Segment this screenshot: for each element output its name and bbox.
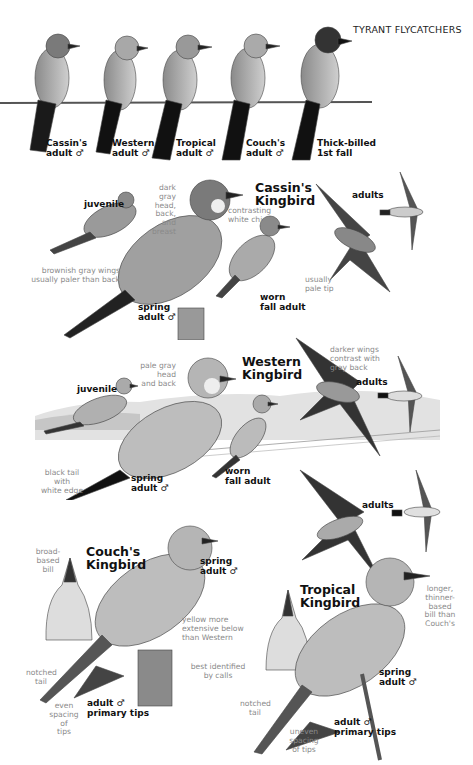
tropical-primary-tips-label: adult ♂primary tips bbox=[334, 717, 396, 737]
western-note-tail: black tail withwhite edge bbox=[36, 469, 88, 495]
tropical-spring-adult-label: springadult ♂ bbox=[379, 667, 417, 687]
couchs-note-spacing: evenspacing oftips bbox=[46, 702, 82, 737]
cassins-juvenile-label: juvenile bbox=[84, 199, 124, 209]
western-spring-adult-label: springadult ♂ bbox=[131, 473, 169, 493]
western-juvenile-label: juvenile bbox=[77, 384, 117, 394]
western-note-head: pale gray headand back bbox=[120, 362, 176, 388]
tropical-note-bill: longer,thinner-basedbill thanCouch's bbox=[420, 585, 460, 629]
couchs-primary-tips-label: adult ♂primary tips bbox=[87, 698, 149, 718]
cassins-title: Cassin'sKingbird bbox=[255, 181, 315, 207]
cassins-spring-adult-label: springadult ♂ bbox=[138, 302, 176, 322]
couchs-note-bill: broad-basedbill bbox=[33, 548, 63, 574]
tropical-adults-label: adults bbox=[362, 500, 394, 510]
cassins-note-head: dark grayhead, back,and breast bbox=[140, 184, 176, 237]
cassins-note-chin: contrastingwhite chin bbox=[228, 207, 271, 225]
western-title: WesternKingbird bbox=[242, 355, 302, 381]
wire-label-western: Westernadult ♂ bbox=[112, 138, 154, 158]
tropical-note-spacing: uneven spacingof tips bbox=[276, 728, 332, 754]
wire-label-couchs: Couch'sadult ♂ bbox=[246, 138, 285, 158]
couchs-title: Couch'sKingbird bbox=[86, 545, 146, 571]
wire-label-cassins: Cassin'sadult ♂ bbox=[46, 138, 87, 158]
cassins-worn-fall-label: wornfall adult bbox=[260, 292, 306, 312]
tropical-title: TropicalKingbird bbox=[300, 583, 360, 609]
cassins-kingbird-illustration bbox=[0, 170, 473, 340]
cassins-note-tip: usuallypale tip bbox=[305, 276, 334, 294]
tropical-note-tail: notchedtail bbox=[240, 700, 270, 718]
wire-label-thick-billed: Thick-billed1st fall bbox=[317, 138, 376, 158]
wire-label-tropical: Tropicaladult ♂ bbox=[176, 138, 216, 158]
western-adults-label: adults bbox=[356, 377, 388, 387]
couchs-note-tail: notchedtail bbox=[26, 669, 56, 687]
western-note-wings: darker wingscontrast withgray back bbox=[330, 346, 380, 372]
cassins-adults-label: adults bbox=[352, 190, 384, 200]
cassins-note-wings: brownish gray wingsusually paler than ba… bbox=[30, 267, 120, 285]
